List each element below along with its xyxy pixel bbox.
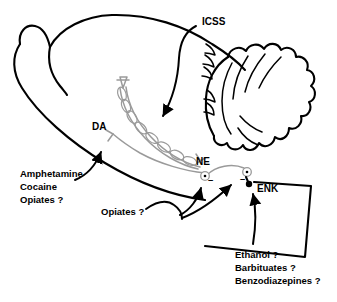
depressant-block: Ethanol ? Barbituates ? Benzodiazepines … <box>235 249 321 286</box>
noradrenaline-pathway <box>116 77 205 169</box>
enk-label: ENK <box>257 183 279 194</box>
olfactory-bulb-outline <box>20 26 50 47</box>
depressant-line-2: Barbituates ? <box>235 262 296 273</box>
opiate-leader <box>146 202 182 219</box>
ne-minus-sign: – <box>208 174 213 185</box>
opiate-line-1: Opiates ? <box>101 206 144 217</box>
psychostimulant-block: Amphetamine Cocaine Opiates ? <box>20 168 83 205</box>
icss-label: ICSS <box>202 16 226 27</box>
psychostimulant-line-1: Amphetamine <box>20 168 83 179</box>
enk-terminal-bouton <box>246 177 252 187</box>
brain-reward-pathway-figure: ICSS DA NE ENK – – Amphetamine Cocaine O… <box>0 0 337 302</box>
enk-minus-sign: – <box>240 173 245 184</box>
depressant-line-1: Ethanol ? <box>235 249 278 260</box>
da-label: DA <box>92 121 106 132</box>
cerebellum-outline <box>202 44 315 150</box>
psychostimulant-line-3: Opiates ? <box>20 194 63 205</box>
opiate-connector-enk <box>182 185 231 218</box>
depressant-connector <box>253 194 255 244</box>
opiate-block: Opiates ? <box>101 206 144 217</box>
psychostimulant-line-2: Cocaine <box>20 181 57 192</box>
ne-label: NE <box>196 156 210 167</box>
icss-connector <box>163 26 196 116</box>
depressant-line-3: Benzodiazepines ? <box>235 275 321 286</box>
